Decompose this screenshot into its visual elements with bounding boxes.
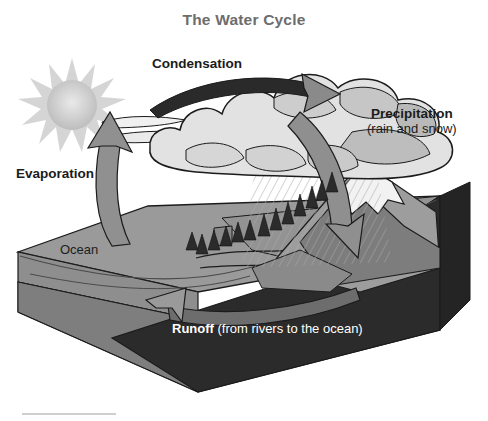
label-runoff-main: Runoff <box>172 321 217 336</box>
label-condensation: Condensation <box>152 56 242 71</box>
label-evaporation: Evaporation <box>16 166 94 181</box>
label-precipitation-main: Precipitation <box>371 106 453 121</box>
water-cycle-diagram: The Water Cycle Condensation Precipitati… <box>0 0 488 421</box>
label-runoff-sub: (from rivers to the ocean) <box>217 321 362 336</box>
label-precipitation-sub: (rain and snow) <box>367 122 457 137</box>
diagram-artwork <box>0 0 488 421</box>
label-runoff: Runoff (from rivers to the ocean) <box>172 322 332 337</box>
label-ocean: Ocean <box>60 243 98 258</box>
page-title: The Water Cycle <box>0 11 488 28</box>
label-precipitation: Precipitation (rain and snow) <box>367 106 457 137</box>
